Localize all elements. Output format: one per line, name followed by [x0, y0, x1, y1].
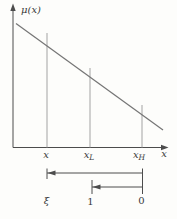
scale-label-one: 1: [87, 196, 93, 207]
tick-label-xH-sub: H: [138, 153, 146, 162]
tick-label-xL-sub: L: [88, 153, 94, 162]
x-axis-label: x: [161, 148, 167, 159]
scale-label-zero: 0: [138, 195, 144, 206]
figure-page: μ(x) x x xL xH ξ 1 0: [0, 0, 177, 219]
tick-label-x: x: [43, 149, 49, 160]
y-axis-label: μ(x): [21, 4, 41, 15]
scale-label-xi: ξ: [44, 195, 50, 206]
membership-function-figure: μ(x) x x xL xH ξ 1 0: [0, 0, 177, 219]
figure-background: [0, 0, 177, 219]
tick-label-x-base: x: [43, 149, 49, 160]
